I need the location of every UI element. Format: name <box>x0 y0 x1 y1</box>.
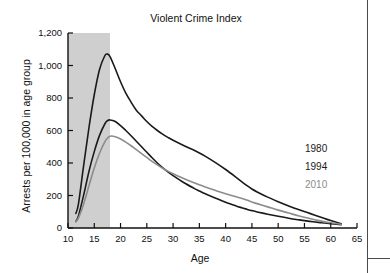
x-axis-tick-label: 50 <box>273 233 284 244</box>
y-axis-tick-label: 800 <box>46 92 62 103</box>
x-axis-tick-label: 10 <box>63 233 74 244</box>
y-axis-tick-label: 200 <box>46 190 62 201</box>
y-axis-tick-label: 1,000 <box>38 60 62 71</box>
x-axis-tick-label: 20 <box>115 233 126 244</box>
chart-legend: 1980 1994 2010 <box>305 143 328 190</box>
x-axis-tick-label: 35 <box>194 233 205 244</box>
chart-title: Violent Crime Index <box>150 12 242 24</box>
y-axis-tick-labels: 02004006008001,0001,200 <box>38 27 62 233</box>
legend-item-2010: 2010 <box>305 179 328 190</box>
x-axis-tick-label: 55 <box>299 233 310 244</box>
y-axis-tick-label: 1,200 <box>38 27 62 38</box>
x-axis-tick-label: 25 <box>142 233 153 244</box>
x-axis-tick-label: 60 <box>325 233 336 244</box>
x-axis-ticks <box>68 223 357 228</box>
x-axis-tick-label: 30 <box>168 233 179 244</box>
series-line-1994 <box>76 120 341 225</box>
series-group <box>76 54 341 225</box>
x-axis-title: Age <box>191 252 210 264</box>
y-axis-tick-label: 0 <box>57 222 62 233</box>
y-axis-title: Arrests per 100,000 in age group <box>20 59 32 213</box>
violent-crime-index-figure: Violent Crime Index 02004006008001,0001,… <box>0 0 390 273</box>
x-axis-tick-label: 45 <box>247 233 258 244</box>
legend-item-1994: 1994 <box>305 161 328 172</box>
plot-area: 02004006008001,0001,200 1015202530354045… <box>38 27 362 244</box>
x-axis-tick-label: 65 <box>352 233 363 244</box>
line-chart: Violent Crime Index 02004006008001,0001,… <box>0 0 390 273</box>
page-border-right <box>367 0 368 273</box>
x-axis-tick-label: 40 <box>220 233 231 244</box>
legend-item-1980: 1980 <box>305 143 328 154</box>
x-axis-tick-label: 15 <box>89 233 100 244</box>
y-axis-tick-label: 400 <box>46 157 62 168</box>
x-axis-tick-labels: 101520253035404550556065 <box>63 233 363 244</box>
page-border-bottom-right <box>367 258 390 259</box>
series-line-1980 <box>76 54 341 224</box>
y-axis-tick-label: 600 <box>46 125 62 136</box>
